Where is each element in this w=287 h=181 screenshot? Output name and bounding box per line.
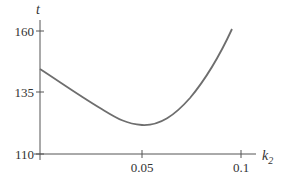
y-tick-label-160: 160	[15, 24, 35, 39]
x-axis-label: k2	[262, 148, 273, 166]
y-axis-label: t	[36, 2, 41, 17]
y-tick-label-135: 135	[15, 85, 35, 100]
x-tick-label-0.1: 0.1	[233, 160, 249, 175]
x-tick-label-0.05: 0.05	[131, 160, 154, 175]
chart: 160 135 110 0.05 0.1 t k2	[0, 0, 287, 181]
data-curve	[40, 29, 232, 125]
y-tick-label-110: 110	[15, 147, 34, 162]
x-axis-label-sub: 2	[268, 155, 273, 166]
